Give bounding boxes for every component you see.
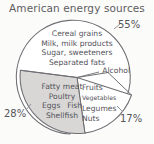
chart-screenshot: American energy sources Cereal grains Mi… bbox=[0, 0, 154, 144]
label-cereal-grains: Cereal grains bbox=[16, 29, 138, 39]
percent-label-animal-foods: 28% bbox=[4, 108, 26, 119]
label-vegetables: Vegetables bbox=[82, 93, 126, 103]
label-fruits: Fruits bbox=[82, 83, 126, 93]
percent-label-plant-foods: 17% bbox=[120, 113, 142, 124]
label-milk-products: Milk, milk products bbox=[16, 39, 138, 49]
label-alcohol: Alcohol bbox=[66, 66, 130, 75]
label-eggs: Eggs bbox=[42, 101, 60, 111]
percent-label-staples: 55% bbox=[118, 19, 140, 30]
label-fish: Fish bbox=[67, 101, 82, 111]
slice-label-staples: Cereal grains Milk, milk products Sugar,… bbox=[16, 29, 138, 67]
label-sugar-sweeteners: Sugar, sweeteners bbox=[16, 48, 138, 58]
